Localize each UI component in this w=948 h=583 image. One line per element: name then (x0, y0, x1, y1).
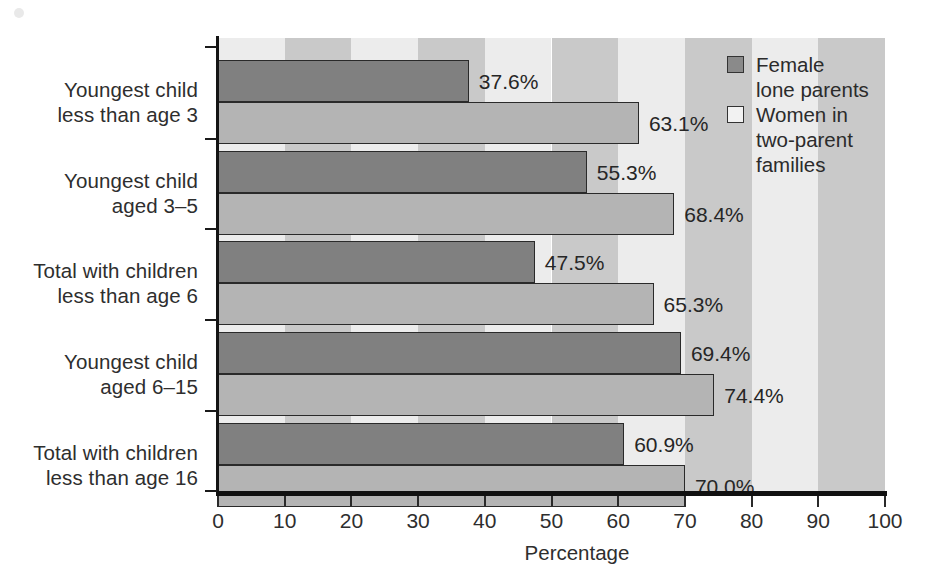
x-tick (884, 496, 886, 507)
category-label-line: less than age 3 (0, 102, 198, 127)
bar-value-label: 47.5% (545, 252, 605, 273)
y-tick (205, 138, 217, 140)
bar-value-label: 74.4% (724, 385, 784, 406)
category-label-0: Youngest childless than age 3 (0, 77, 198, 127)
y-tick (205, 228, 217, 230)
x-axis-title-text: Percentage (525, 541, 630, 564)
bar-1-3 (218, 374, 714, 416)
x-tick (617, 496, 619, 507)
x-tick-label: 100 (867, 508, 902, 533)
category-label-4: Total with childrenless than age 16 (0, 440, 198, 490)
legend-item-0: Femalelone parents (726, 52, 896, 102)
category-label-line: aged 3–5 (0, 193, 198, 218)
y-axis-line (216, 36, 219, 494)
x-tick (350, 496, 352, 507)
category-label-line: less than age 16 (0, 465, 198, 490)
legend-label-line: lone parents (756, 77, 896, 102)
bar-value-label: 55.3% (597, 162, 657, 183)
x-tick-label: 40 (473, 508, 496, 533)
x-tick (817, 496, 819, 507)
x-tick-label: 0 (212, 508, 224, 533)
x-tick (284, 496, 286, 507)
x-tick-label: 70 (673, 508, 696, 533)
legend-swatch-icon (727, 56, 744, 73)
scan-artifact (14, 8, 24, 18)
y-tick (205, 319, 217, 321)
x-tick (484, 496, 486, 507)
bar-1-4 (218, 465, 685, 507)
bar-chart: Youngest childless than age 3Youngest ch… (0, 0, 948, 583)
bar-value-label: 68.4% (684, 204, 744, 225)
y-tick (205, 46, 217, 48)
bar-value-label: 65.3% (664, 294, 724, 315)
category-label-line: Youngest child (0, 349, 198, 374)
legend-label-line: Female (756, 52, 896, 77)
x-tick (551, 496, 553, 507)
y-tick (205, 410, 217, 412)
x-tick-label: 10 (273, 508, 296, 533)
x-axis-title: Percentage (0, 541, 948, 565)
bar-value-label: 60.9% (634, 434, 694, 455)
legend-label-line: Women in (756, 102, 896, 127)
category-label-line: Total with children (0, 440, 198, 465)
bar-0-4 (218, 423, 624, 465)
y-tick (205, 490, 217, 492)
bar-0-0 (218, 60, 469, 102)
bar-1-2 (218, 283, 654, 325)
bar-0-1 (218, 151, 587, 193)
category-label-line: Youngest child (0, 168, 198, 193)
x-tick-label: 20 (340, 508, 363, 533)
category-label-line: Total with children (0, 258, 198, 283)
bar-0-3 (218, 332, 681, 374)
legend-label-line: families (756, 152, 896, 177)
category-label-1: Youngest childaged 3–5 (0, 168, 198, 218)
category-label-line: Youngest child (0, 77, 198, 102)
x-tick-label: 80 (740, 508, 763, 533)
x-tick-label: 50 (540, 508, 563, 533)
legend-swatch-icon (727, 106, 744, 123)
bar-value-label: 37.6% (479, 71, 539, 92)
bar-value-label: 69.4% (691, 343, 751, 364)
x-tick-label: 60 (607, 508, 630, 533)
category-axis-labels: Youngest childless than age 3Youngest ch… (0, 38, 210, 492)
x-tick-label: 30 (406, 508, 429, 533)
bar-value-label: 63.1% (649, 113, 709, 134)
x-tick (751, 496, 753, 507)
chart-legend: Femalelone parentsWomen intwo-parentfami… (726, 52, 896, 177)
category-label-line: aged 6–15 (0, 374, 198, 399)
bar-0-2 (218, 241, 535, 283)
category-label-2: Total with childrenless than age 6 (0, 258, 198, 308)
x-tick-label: 90 (807, 508, 830, 533)
category-label-line: less than age 6 (0, 283, 198, 308)
x-tick (417, 496, 419, 507)
category-label-3: Youngest childaged 6–15 (0, 349, 198, 399)
bar-1-1 (218, 193, 674, 235)
legend-label-line: two-parent (756, 127, 896, 152)
x-tick (217, 496, 219, 507)
legend-item-1: Women intwo-parentfamilies (726, 102, 896, 177)
bar-1-0 (218, 102, 639, 144)
x-tick (684, 496, 686, 507)
